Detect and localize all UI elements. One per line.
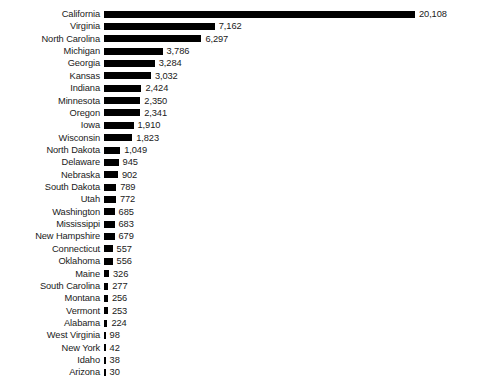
bar <box>104 97 140 104</box>
bar-row: North Dakota1,049 <box>0 144 484 156</box>
bar-category-label: Kansas <box>0 70 100 82</box>
bar-value-label: 683 <box>119 218 134 230</box>
bar-row: Nebraska902 <box>0 169 484 181</box>
bar-category-label: North Dakota <box>0 144 100 156</box>
bar-category-label: South Carolina <box>0 280 100 292</box>
bar-row: California20,108 <box>0 8 484 20</box>
bar-row: Indiana2,424 <box>0 82 484 94</box>
bar <box>104 270 109 277</box>
bar-track: 683 <box>104 218 484 230</box>
bar-track: 1,823 <box>104 132 484 144</box>
bar-value-label: 1,049 <box>124 144 147 156</box>
bar-category-label: Iowa <box>0 119 100 131</box>
bar <box>104 134 132 141</box>
bar-value-label: 772 <box>120 193 135 205</box>
bar <box>104 60 155 67</box>
bar-row: Mississippi683 <box>0 218 484 230</box>
bar-track: 3,032 <box>104 70 484 82</box>
bar-value-label: 557 <box>117 243 132 255</box>
bar <box>104 48 163 55</box>
bar <box>104 196 116 203</box>
bar <box>104 344 106 351</box>
bar <box>104 258 113 265</box>
bar-track: 253 <box>104 305 484 317</box>
bar-row: South Dakota789 <box>0 181 484 193</box>
bar-row: Connecticut557 <box>0 243 484 255</box>
bar-value-label: 789 <box>120 181 135 193</box>
bar-category-label: Arizona <box>0 366 100 378</box>
bar <box>104 184 116 191</box>
bar-row: South Carolina277 <box>0 280 484 292</box>
bar-category-label: Delaware <box>0 156 100 168</box>
bar-value-label: 224 <box>111 317 126 329</box>
bar <box>104 295 108 302</box>
bar <box>104 357 106 364</box>
bar-value-label: 3,786 <box>167 45 190 57</box>
bar-value-label: 3,284 <box>159 57 182 69</box>
bar-row: Montana256 <box>0 292 484 304</box>
bar-category-label: New Hampshire <box>0 230 100 242</box>
bar-value-label: 38 <box>110 354 120 366</box>
bar-row: Delaware945 <box>0 156 484 168</box>
bar <box>104 369 106 376</box>
bar-category-label: Oregon <box>0 107 100 119</box>
bar-value-label: 3,032 <box>155 70 178 82</box>
bar-row: Maine326 <box>0 268 484 280</box>
bar-track: 30 <box>104 366 484 378</box>
bar-category-label: Wisconsin <box>0 132 100 144</box>
bar-track: 1,049 <box>104 144 484 156</box>
bar-category-label: South Dakota <box>0 181 100 193</box>
bar <box>104 283 108 290</box>
bar <box>104 85 141 92</box>
bar-row: Georgia3,284 <box>0 57 484 69</box>
bar-category-label: Vermont <box>0 305 100 317</box>
bar-row: New Hampshire679 <box>0 230 484 242</box>
bar <box>104 233 115 240</box>
bar-value-label: 679 <box>119 230 134 242</box>
bar-value-label: 556 <box>117 255 132 267</box>
bar-value-label: 98 <box>110 329 120 341</box>
bar-category-label: Michigan <box>0 45 100 57</box>
bar-track: 1,910 <box>104 119 484 131</box>
bar-value-label: 277 <box>112 280 127 292</box>
bar-chart: California20,108Virginia7,162North Carol… <box>0 0 484 390</box>
bar-track: 789 <box>104 181 484 193</box>
bar-category-label: Utah <box>0 193 100 205</box>
bar-track: 945 <box>104 156 484 168</box>
bar-track: 256 <box>104 292 484 304</box>
bar <box>104 245 113 252</box>
bar-track: 3,786 <box>104 45 484 57</box>
bar-track: 902 <box>104 169 484 181</box>
bar-track: 2,350 <box>104 95 484 107</box>
bar-value-label: 253 <box>112 305 127 317</box>
bar <box>104 72 151 79</box>
bar-row: Virginia7,162 <box>0 20 484 32</box>
bar <box>104 171 118 178</box>
bar <box>104 320 107 327</box>
bar-row: Oklahoma556 <box>0 255 484 267</box>
bar-category-label: Idaho <box>0 354 100 366</box>
bar-row: New York42 <box>0 342 484 354</box>
bar-track: 772 <box>104 193 484 205</box>
bar-row: Oregon2,341 <box>0 107 484 119</box>
bar-category-label: Minnesota <box>0 95 100 107</box>
bar-track: 685 <box>104 206 484 218</box>
bar-value-label: 945 <box>123 156 138 168</box>
bar <box>104 35 201 42</box>
bar <box>104 109 140 116</box>
bar-track: 326 <box>104 268 484 280</box>
bar-track: 98 <box>104 329 484 341</box>
bar <box>104 122 134 129</box>
bar-row: Alabama224 <box>0 317 484 329</box>
bar-value-label: 7,162 <box>219 20 242 32</box>
bar <box>104 23 215 30</box>
bar <box>104 221 115 228</box>
bar-category-label: Georgia <box>0 57 100 69</box>
bar-value-label: 2,350 <box>144 95 167 107</box>
bar <box>104 208 115 215</box>
bar-row: Minnesota2,350 <box>0 95 484 107</box>
bar <box>104 332 106 339</box>
bar-category-label: Montana <box>0 292 100 304</box>
bar-category-label: West Virginia <box>0 329 100 341</box>
bar-track: 224 <box>104 317 484 329</box>
